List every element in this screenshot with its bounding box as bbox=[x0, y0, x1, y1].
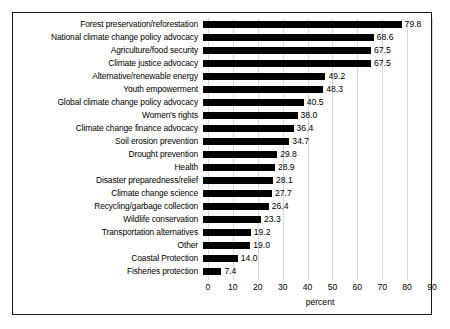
x-tick-label: 90 bbox=[427, 282, 437, 293]
bar bbox=[203, 216, 261, 223]
bar-cell: 7.4 bbox=[203, 265, 432, 278]
bar-cell: 38.0 bbox=[203, 109, 432, 122]
x-tick-label: 10 bbox=[228, 282, 238, 293]
bar-value-label: 14.0 bbox=[241, 253, 258, 264]
bar-rows: Forest preservation/reforestation79.8Nat… bbox=[12, 18, 432, 278]
bar-value-label: 23.3 bbox=[264, 214, 281, 225]
bar-row: Forest preservation/reforestation79.8 bbox=[12, 18, 432, 31]
category-label: Women's rights bbox=[12, 111, 203, 120]
bar bbox=[203, 151, 277, 158]
category-label: Agriculture/food security bbox=[12, 46, 203, 55]
category-label: Fisheries protection bbox=[12, 267, 203, 276]
x-tick-label: 60 bbox=[353, 282, 363, 293]
category-label: Forest preservation/reforestation bbox=[12, 20, 203, 29]
bar-value-label: 28.1 bbox=[276, 175, 293, 186]
bar-value-label: 68.6 bbox=[377, 32, 394, 43]
bar-cell: 48.3 bbox=[203, 83, 432, 96]
bar-row: Other19.0 bbox=[12, 239, 432, 252]
category-label: Alternative/renewable energy bbox=[12, 72, 203, 81]
bar bbox=[203, 125, 294, 132]
bar-row: Transportation alternatives19.2 bbox=[12, 226, 432, 239]
gridline bbox=[432, 18, 433, 280]
bar-row: Women's rights38.0 bbox=[12, 109, 432, 122]
category-label: Recycling/garbage collection bbox=[12, 202, 203, 211]
bar-row: Disaster preparedness/relief28.1 bbox=[12, 174, 432, 187]
bar-row: Coastal Protection14.0 bbox=[12, 252, 432, 265]
bar-row: Climate justice advocacy67.5 bbox=[12, 57, 432, 70]
category-label: Disaster preparedness/relief bbox=[12, 176, 203, 185]
x-axis-label: percent bbox=[208, 297, 432, 307]
x-tick-label: 50 bbox=[328, 282, 338, 293]
bar-cell: 28.1 bbox=[203, 174, 432, 187]
bar-cell: 27.7 bbox=[203, 187, 432, 200]
bar bbox=[203, 255, 238, 262]
category-label: Youth empowerment bbox=[12, 85, 203, 94]
bar-value-label: 7.4 bbox=[224, 266, 236, 277]
bar-row: Wildlife conservation23.3 bbox=[12, 213, 432, 226]
bar-value-label: 67.5 bbox=[374, 45, 391, 56]
bar-row: Soil erosion prevention34.7 bbox=[12, 135, 432, 148]
category-label: Climate change science bbox=[12, 189, 203, 198]
bar-value-label: 79.8 bbox=[405, 19, 422, 30]
bar-value-label: 38.0 bbox=[301, 110, 318, 121]
bar-value-label: 36.4 bbox=[297, 123, 314, 134]
x-tick-label: 40 bbox=[303, 282, 313, 293]
figure: Forest preservation/reforestation79.8Nat… bbox=[0, 0, 450, 329]
category-label: Health bbox=[12, 163, 203, 172]
bar-row: Recycling/garbage collection26.4 bbox=[12, 200, 432, 213]
bar bbox=[203, 138, 289, 145]
bar-row: Global climate change policy advocacy40.… bbox=[12, 96, 432, 109]
category-label: Coastal Protection bbox=[12, 254, 203, 263]
bar-row: Climate change science27.7 bbox=[12, 187, 432, 200]
bar-cell: 28.9 bbox=[203, 161, 432, 174]
x-tick-label: 0 bbox=[206, 282, 211, 293]
bar-row: Drought prevention29.8 bbox=[12, 148, 432, 161]
bar-cell: 14.0 bbox=[203, 252, 432, 265]
bar bbox=[203, 112, 298, 119]
bar-value-label: 26.4 bbox=[272, 201, 289, 212]
bar bbox=[203, 190, 272, 197]
category-label: Other bbox=[12, 241, 203, 250]
bar-cell: 36.4 bbox=[203, 122, 432, 135]
bar-cell: 34.7 bbox=[203, 135, 432, 148]
bar bbox=[203, 21, 402, 28]
bar-cell: 67.5 bbox=[203, 57, 432, 70]
category-label: Drought prevention bbox=[12, 150, 203, 159]
bar-row: Climate change finance advocacy36.4 bbox=[12, 122, 432, 135]
x-tick-label: 20 bbox=[253, 282, 263, 293]
bar-row: National climate change policy advocacy6… bbox=[12, 31, 432, 44]
category-label: Transportation alternatives bbox=[12, 228, 203, 237]
bar bbox=[203, 99, 304, 106]
bar-row: Alternative/renewable energy49.2 bbox=[12, 70, 432, 83]
bar bbox=[203, 47, 371, 54]
bar bbox=[203, 164, 275, 171]
category-label: Climate change finance advocacy bbox=[12, 124, 203, 133]
bar bbox=[203, 242, 250, 249]
category-label: National climate change policy advocacy bbox=[12, 33, 203, 42]
bar-cell: 40.5 bbox=[203, 96, 432, 109]
bar-value-label: 48.3 bbox=[326, 84, 343, 95]
bar-chart: Forest preservation/reforestation79.8Nat… bbox=[12, 12, 432, 315]
bar-row: Youth empowerment48.3 bbox=[12, 83, 432, 96]
bar-cell: 67.5 bbox=[203, 44, 432, 57]
category-label: Climate justice advocacy bbox=[12, 59, 203, 68]
bar-value-label: 67.5 bbox=[374, 58, 391, 69]
category-label: Wildlife conservation bbox=[12, 215, 203, 224]
bar bbox=[203, 60, 371, 67]
bar-cell: 19.0 bbox=[203, 239, 432, 252]
bar bbox=[203, 177, 273, 184]
bar-row: Agriculture/food security67.5 bbox=[12, 44, 432, 57]
bar bbox=[203, 229, 251, 236]
bar-value-label: 19.2 bbox=[254, 227, 271, 238]
bar bbox=[203, 268, 221, 275]
x-tick-label: 70 bbox=[377, 282, 387, 293]
bar-cell: 79.8 bbox=[203, 18, 432, 31]
bar-cell: 49.2 bbox=[203, 70, 432, 83]
bar-value-label: 40.5 bbox=[307, 97, 324, 108]
bar-value-label: 29.8 bbox=[280, 149, 297, 160]
bar-value-label: 28.9 bbox=[278, 162, 295, 173]
bar-value-label: 34.7 bbox=[292, 136, 309, 147]
bar-cell: 29.8 bbox=[203, 148, 432, 161]
bar-cell: 23.3 bbox=[203, 213, 432, 226]
bar-cell: 68.6 bbox=[203, 31, 432, 44]
